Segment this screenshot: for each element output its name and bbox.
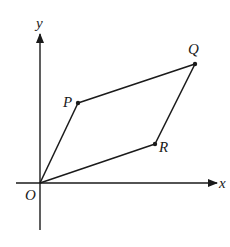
edge-p-q [78, 64, 195, 103]
edge-o-p [40, 103, 78, 183]
origin-label: O [25, 187, 36, 203]
edge-r-o [40, 144, 155, 183]
parallelogram-diagram: y x O P Q R [0, 0, 230, 247]
y-axis-label: y [34, 15, 43, 31]
point-p-dot [76, 101, 80, 105]
x-axis-label: x [218, 175, 226, 191]
point-r-label: R [158, 139, 168, 155]
point-p-label: P [62, 94, 72, 110]
point-q-dot [193, 62, 197, 66]
point-r-dot [153, 142, 157, 146]
point-q-label: Q [188, 41, 199, 57]
